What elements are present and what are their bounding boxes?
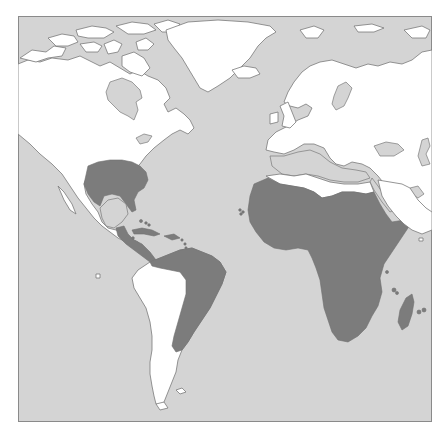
world-map (18, 16, 432, 422)
socotra (419, 238, 423, 241)
ireland (270, 112, 278, 124)
mascarene-range (417, 310, 421, 314)
comoros-range (392, 288, 396, 292)
map-frame (18, 16, 432, 422)
galapagos-islands (96, 274, 100, 278)
